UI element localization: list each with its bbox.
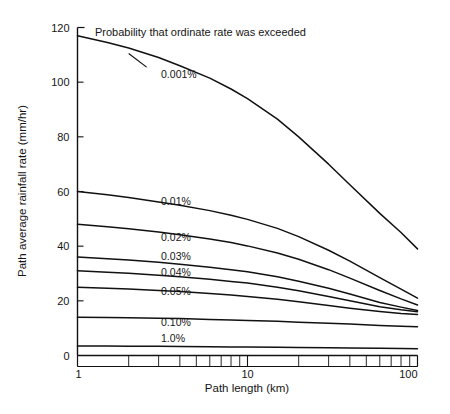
series-label-0001: 0.001% xyxy=(161,68,197,80)
curve-0001 xyxy=(78,36,418,249)
series-label-001: 0.01% xyxy=(161,195,191,207)
labels-group: 0204060801001201101000.001%0.01%0.02%0.0… xyxy=(51,22,417,380)
series-label-004: 0.04% xyxy=(161,266,191,278)
curve-002 xyxy=(78,224,418,305)
x-tick-label-100: 100 xyxy=(399,368,417,380)
curve-004 xyxy=(78,271,418,312)
x-axis-title: Path length (km) xyxy=(205,382,290,394)
y-tick-label-0: 0 xyxy=(63,350,69,362)
rainfall-rate-chart-figure: 0204060801001201101000.001%0.01%0.02%0.0… xyxy=(0,0,450,414)
y-tick-label-100: 100 xyxy=(51,76,69,88)
chart-canvas: 0204060801001201101000.001%0.01%0.02%0.0… xyxy=(0,0,450,414)
x-tick-label-1: 1 xyxy=(76,368,82,380)
curve-001 xyxy=(78,192,418,299)
series-label-10: 1.0% xyxy=(161,332,185,344)
series-label-010: 0.10% xyxy=(161,316,191,328)
series-label-003: 0.03% xyxy=(161,250,191,262)
y-tick-label-60: 60 xyxy=(57,186,69,198)
y-tick-label-40: 40 xyxy=(57,240,69,252)
curve-005 xyxy=(78,287,418,314)
curves-group xyxy=(78,36,418,349)
y-tick-label-20: 20 xyxy=(57,295,69,307)
curve-010 xyxy=(78,317,418,327)
legend-annotation: Probability that ordinate rate was excee… xyxy=(95,26,306,38)
series-label-005: 0.05% xyxy=(161,285,191,297)
series-label-002: 0.02% xyxy=(161,231,191,243)
x-tick-label-10: 10 xyxy=(241,368,253,380)
y-axis-title: Path average rainfall rate (mm/hr) xyxy=(16,105,28,277)
y-tick-label-120: 120 xyxy=(51,22,69,34)
curve-10 xyxy=(78,346,418,349)
y-tick-label-80: 80 xyxy=(57,131,69,143)
label-leader-line xyxy=(129,53,147,67)
